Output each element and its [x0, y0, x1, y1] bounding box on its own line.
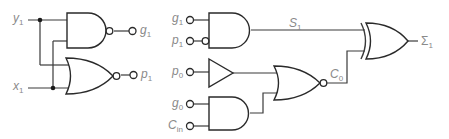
label-s1: S1	[289, 17, 301, 34]
label-g1-in: g1	[172, 12, 183, 29]
label-p1-in: p1	[172, 34, 183, 51]
and-gate-g0-cin	[209, 97, 249, 130]
inversion-bubble	[106, 28, 113, 35]
label-g1-out: g1	[140, 24, 151, 41]
output-terminal-p1	[130, 72, 137, 79]
label-p0-in: p0	[172, 65, 183, 82]
junction-dot-x1	[51, 86, 56, 91]
right-block-terminals	[187, 17, 194, 130]
output-terminal-g1	[129, 28, 136, 35]
inversion-bubble	[113, 73, 120, 80]
nor-gate-p1	[66, 58, 137, 94]
label-cin-in: Cin	[168, 119, 183, 136]
label-g0-in: g0	[172, 97, 183, 114]
label-sigma1: Σ1	[421, 35, 433, 52]
junction-dot-y1	[38, 18, 43, 23]
xor-gate-sum	[361, 23, 408, 59]
nor-gate-c0	[274, 66, 327, 100]
and-gate-s1	[202, 13, 249, 48]
label-p1-out: p1	[141, 68, 152, 85]
label-x1: x1	[13, 80, 23, 97]
circuit-svg	[0, 0, 449, 139]
inverted-input-bubble-p1	[202, 38, 209, 45]
inversion-bubble	[320, 80, 327, 87]
label-c0: C0	[330, 68, 343, 85]
label-y1: y1	[13, 12, 23, 29]
buffer-gate-p0	[209, 59, 233, 87]
logic-circuit-diagram: y1 x1 g1 p1 g1 p1 p0 g0 Cin S1 C0 Σ1	[0, 0, 449, 139]
